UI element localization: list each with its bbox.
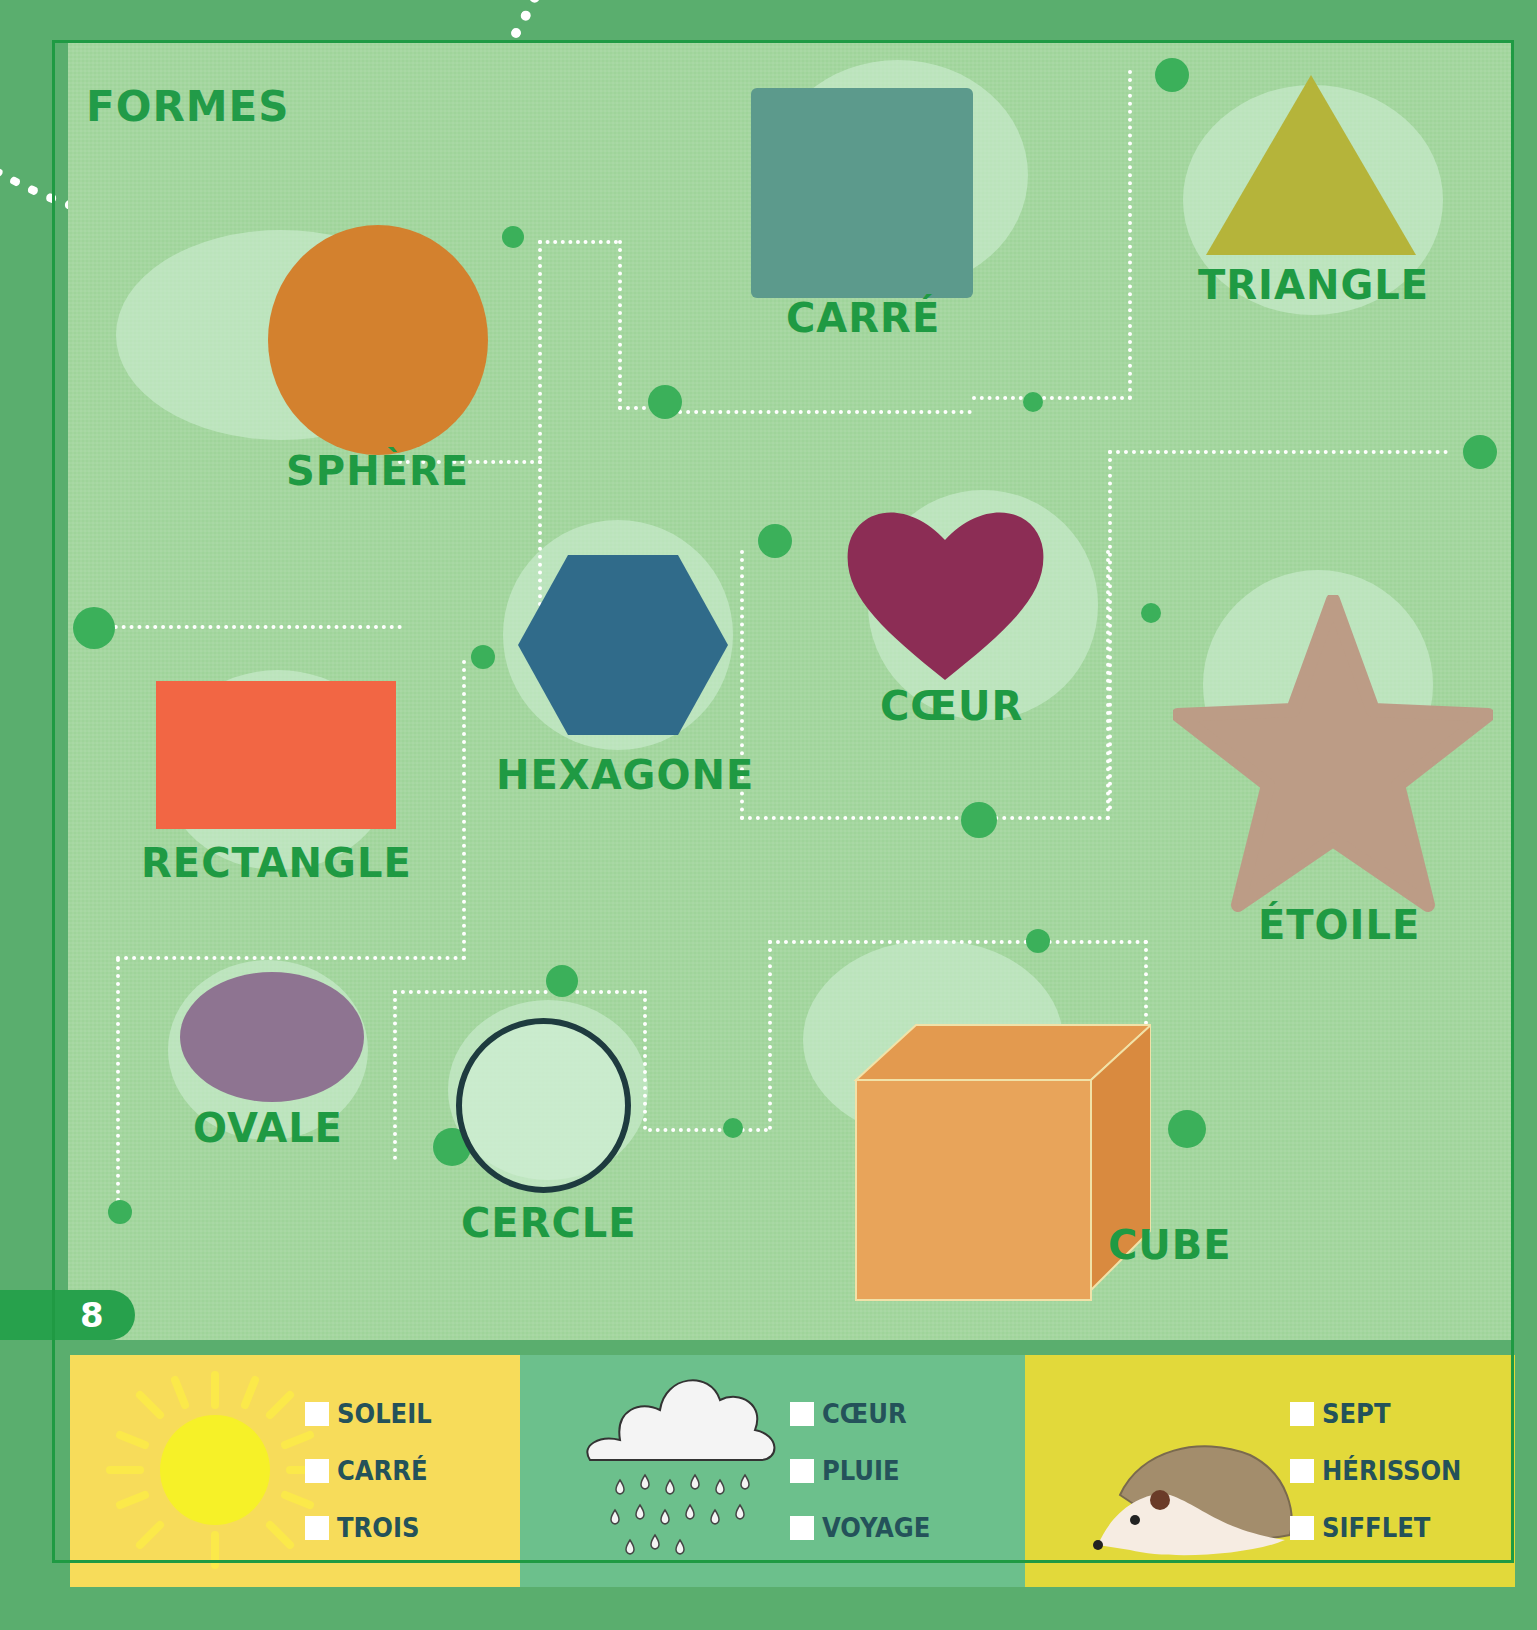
path-dot	[1023, 392, 1043, 412]
label-rectangle: RECTANGLE	[141, 840, 412, 886]
rain-cloud-icon	[580, 1365, 790, 1565]
shapes-canvas: SPHÈRE CARRÉ TRIANGLE HEXAGONE CŒUR ÉTOI…	[68, 40, 1513, 1340]
label-triangle: TRIANGLE	[1198, 262, 1429, 308]
option-sept[interactable]: SEPT	[1290, 1385, 1461, 1442]
page-title: FORMES	[86, 82, 289, 131]
option-coeur[interactable]: CŒUR	[790, 1385, 930, 1442]
path-dot	[1463, 435, 1497, 469]
path-dot	[502, 226, 524, 248]
label-cube: CUBE	[1108, 1222, 1232, 1268]
path-dot	[546, 965, 578, 997]
label-carre: CARRÉ	[786, 295, 940, 341]
path-dot	[1155, 58, 1189, 92]
checkbox[interactable]	[1290, 1459, 1314, 1483]
path-dot	[961, 802, 997, 838]
option-sifflet[interactable]: SIFFLET	[1290, 1499, 1461, 1556]
path-dot	[471, 645, 495, 669]
hedgehog-icon	[1090, 1435, 1300, 1565]
heart-shape	[843, 500, 1048, 685]
path-dot	[1141, 603, 1161, 623]
square-shape	[751, 88, 973, 298]
checkbox[interactable]	[305, 1402, 329, 1426]
path-dot	[73, 607, 115, 649]
label-hexagone: HEXAGONE	[496, 752, 754, 798]
star-shape	[1173, 595, 1493, 915]
checkbox[interactable]	[1290, 1516, 1314, 1540]
option-herisson[interactable]: HÉRISSON	[1290, 1442, 1461, 1499]
triangle-shape	[1201, 70, 1421, 260]
option-pluie[interactable]: PLUIE	[790, 1442, 930, 1499]
cube-shape	[851, 1020, 1151, 1305]
path-dot	[723, 1118, 743, 1138]
sphere-shape	[268, 225, 488, 455]
circle-shape	[456, 1018, 631, 1193]
quiz-panel-sun: SOLEIL CARRÉ TROIS	[70, 1355, 520, 1587]
option-trois[interactable]: TROIS	[305, 1499, 432, 1556]
hexagon-shape	[513, 550, 733, 740]
path-dot	[1168, 1110, 1206, 1148]
checkbox[interactable]	[790, 1402, 814, 1426]
path-dot	[1026, 929, 1050, 953]
checkbox[interactable]	[790, 1516, 814, 1540]
page-number: 8	[0, 1290, 135, 1340]
sun-icon	[100, 1365, 330, 1575]
option-soleil[interactable]: SOLEIL	[305, 1385, 432, 1442]
label-coeur: CŒUR	[880, 683, 1023, 729]
label-cercle: CERCLE	[461, 1200, 637, 1246]
checkbox[interactable]	[305, 1516, 329, 1540]
checkbox[interactable]	[790, 1459, 814, 1483]
rectangle-shape	[156, 681, 396, 829]
option-carre[interactable]: CARRÉ	[305, 1442, 432, 1499]
path-dot	[758, 524, 792, 558]
oval-shape	[180, 972, 364, 1102]
path-dot	[648, 385, 682, 419]
quiz-panel-hedgehog: SEPT HÉRISSON SIFFLET	[1025, 1355, 1515, 1587]
quiz-panel-rain: CŒUR PLUIE VOYAGE	[520, 1355, 1025, 1587]
label-ovale: OVALE	[193, 1105, 343, 1151]
label-etoile: ÉTOILE	[1258, 902, 1420, 948]
path-dot	[108, 1200, 132, 1224]
option-voyage[interactable]: VOYAGE	[790, 1499, 930, 1556]
checkbox[interactable]	[1290, 1402, 1314, 1426]
label-sphere: SPHÈRE	[286, 448, 469, 494]
checkbox[interactable]	[305, 1459, 329, 1483]
workbook-page: SPHÈRE CARRÉ TRIANGLE HEXAGONE CŒUR ÉTOI…	[0, 0, 1537, 1630]
